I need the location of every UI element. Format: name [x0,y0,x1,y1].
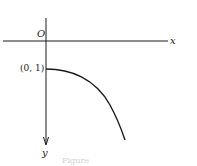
origin-label: O [37,29,45,39]
x-axis-label: x [170,36,176,46]
diagram-canvas [0,0,197,166]
caption: Figure [62,157,89,165]
curve [46,69,125,140]
y-axis-label: y [42,148,48,158]
point-label: (0, 1) [20,64,44,73]
